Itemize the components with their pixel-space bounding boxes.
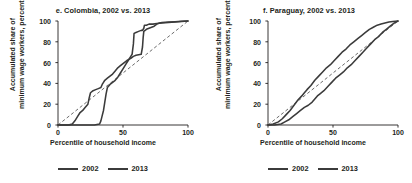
legend-label-2002: 2002 [292, 164, 308, 173]
y-tick-label: 60 [241, 59, 261, 66]
panel-title-colombia: e. Colombia, 2002 vs. 2013 [0, 6, 206, 15]
y-axis-label-line1: Accumulated share of [9, 0, 18, 115]
legend-label-2013: 2013 [342, 164, 358, 173]
y-tick-label: 80 [241, 38, 261, 45]
y-axis-label-line2: minimum wage workers, percent [18, 0, 27, 115]
legend-swatch-2013 [108, 168, 128, 170]
y-tick-label: 100 [241, 18, 261, 25]
panel-title-paraguay: f. Paraguay, 2002 vs. 2013 [206, 6, 412, 15]
y-tick-label: 20 [241, 101, 261, 108]
figure-two-panel-lorenz-curves: e. Colombia, 2002 vs. 2013 Accumulated s… [0, 0, 412, 183]
x-tick-label: 100 [388, 129, 408, 136]
legend-colombia: 2002 2013 [0, 164, 206, 173]
y-tick-label: 40 [31, 80, 51, 87]
x-tick-label: 0 [48, 129, 68, 136]
legend-label-2002: 2002 [82, 164, 98, 173]
y-tick-label: 100 [31, 18, 51, 25]
x-tick-label: 50 [113, 129, 133, 136]
y-axis-label-colombia: Accumulated share of minimum wage worker… [9, 0, 26, 115]
y-tick-label: 80 [31, 38, 51, 45]
legend-paraguay: 2002 2013 [210, 164, 412, 173]
y-tick-label: 20 [31, 101, 51, 108]
legend-swatch-2002 [58, 168, 78, 170]
legend-item-2013: 2013 [318, 164, 358, 173]
y-tick-label: 0 [31, 122, 51, 129]
y-axis-label-paraguay: Accumulated share of minimum wage worker… [215, 0, 232, 115]
legend-item-2013: 2013 [108, 164, 148, 173]
chart-svg-paraguay [268, 21, 398, 125]
x-tick-label: 50 [323, 129, 343, 136]
legend-label-2013: 2013 [132, 164, 148, 173]
panel-paraguay: f. Paraguay, 2002 vs. 2013 Accumulated s… [206, 0, 412, 183]
x-tick-label: 100 [178, 129, 198, 136]
plot-area-colombia: 020406080100050100 [58, 21, 188, 125]
x-tick-label: 0 [258, 129, 278, 136]
legend-swatch-2013 [318, 168, 338, 170]
x-axis-label-paraguay: Percentile of household income [210, 139, 412, 146]
panel-colombia: e. Colombia, 2002 vs. 2013 Accumulated s… [0, 0, 206, 183]
y-tick-label: 0 [241, 122, 261, 129]
chart-svg-colombia [58, 21, 188, 125]
reference-line-45deg [58, 21, 188, 125]
legend-swatch-2002 [268, 168, 288, 170]
y-tick-label: 40 [241, 80, 261, 87]
y-axis-label-line1: Accumulated share of [215, 0, 224, 115]
y-tick-label: 60 [31, 59, 51, 66]
legend-item-2002: 2002 [58, 164, 98, 173]
plot-area-paraguay: 020406080100050100 [268, 21, 398, 125]
x-axis-label-colombia: Percentile of household income [0, 139, 206, 146]
y-axis-label-line2: minimum wage workers, percent [224, 0, 233, 115]
legend-item-2002: 2002 [268, 164, 308, 173]
